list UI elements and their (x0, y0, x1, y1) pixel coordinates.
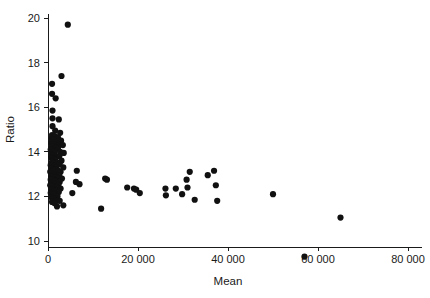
data-point (49, 115, 55, 121)
data-point (163, 192, 169, 198)
data-point (205, 172, 211, 178)
data-point (58, 73, 64, 79)
scatter-plot-figure: 101214161820020 00040 00060 00080 000Mea… (0, 0, 430, 298)
y-tick-label: 12 (28, 190, 40, 202)
data-point (211, 168, 217, 174)
data-point (214, 198, 220, 204)
data-point (173, 185, 179, 191)
y-tick-label: 10 (28, 235, 40, 247)
y-tick-label: 16 (28, 101, 40, 113)
x-tick-label: 80 000 (391, 253, 425, 265)
data-point (137, 190, 143, 196)
data-point (74, 168, 80, 174)
data-point (54, 203, 60, 209)
data-point (192, 197, 198, 203)
data-point (98, 206, 104, 212)
y-tick-label: 20 (28, 12, 40, 24)
data-point (49, 81, 55, 87)
data-point (49, 107, 55, 113)
data-point (53, 95, 59, 101)
data-point (162, 185, 168, 191)
data-point (65, 22, 71, 28)
y-tick-label: 18 (28, 57, 40, 69)
data-point-group (47, 22, 343, 260)
y-axis-title: Ratio (4, 116, 16, 143)
data-point (76, 181, 82, 187)
x-tick-label: 0 (45, 253, 51, 265)
x-tick-label: 40 000 (211, 253, 245, 265)
data-point (124, 184, 130, 190)
data-point (187, 169, 193, 175)
data-point (104, 177, 110, 183)
data-point (179, 191, 185, 197)
data-point (301, 254, 307, 260)
x-axis-title: Mean (214, 275, 243, 287)
x-tick-label: 20 000 (121, 253, 155, 265)
data-point (69, 190, 75, 196)
data-point (213, 182, 219, 188)
data-point (184, 184, 190, 190)
data-point (184, 177, 190, 183)
data-point (56, 116, 62, 122)
data-point (270, 191, 276, 197)
y-tick-label: 14 (28, 146, 40, 158)
data-point (337, 214, 343, 220)
data-point (60, 202, 66, 208)
plot-canvas: 101214161820020 00040 00060 00080 000Mea… (0, 0, 430, 298)
